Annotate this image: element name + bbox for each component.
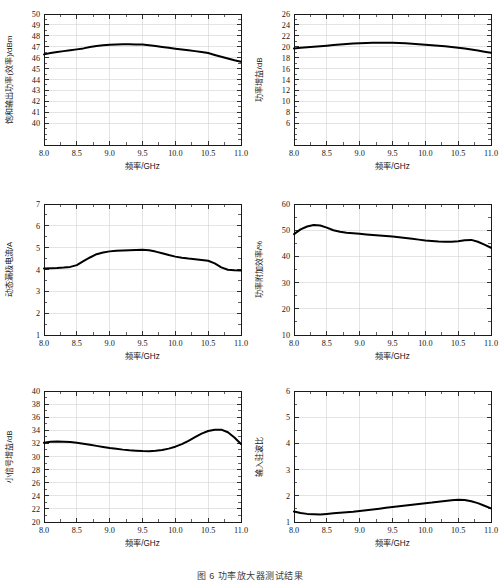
x-tick-label: 8.0: [289, 339, 299, 348]
x-tick-label: 8.0: [39, 149, 49, 158]
chart-panel-power-added-efficiency: 1020304050608.08.59.09.510.010.511.0频率/G…: [250, 190, 500, 383]
x-tick-label: 9.0: [105, 339, 115, 348]
x-tick-label: 9.5: [137, 339, 147, 348]
x-tick-label: 11.0: [234, 149, 248, 158]
x-tick-label: 8.0: [289, 526, 299, 535]
y-tick-label: 30: [32, 453, 40, 462]
x-tick-label: 8.5: [72, 339, 82, 348]
y-tick-label: 24: [32, 492, 40, 501]
x-tick-label: 11.0: [484, 149, 498, 158]
y-tick-label: 3: [286, 466, 290, 475]
x-tick-label: 10.0: [418, 339, 432, 348]
x-tick-label: 9.0: [355, 149, 365, 158]
y-tick-label: 40: [32, 387, 40, 396]
x-tick-label: 9.5: [387, 149, 397, 158]
chart-panel-small-signal-gain: 20222426283032343638408.08.59.09.510.010…: [0, 377, 250, 570]
x-tick-label: 8.0: [39, 339, 49, 348]
y-tick-label: 4: [36, 266, 40, 275]
x-tick-label: 8.0: [289, 149, 299, 158]
y-axis-title: 功率附加效率/%: [254, 241, 264, 298]
x-tick-label: 9.0: [105, 526, 115, 535]
y-tick-label: 60: [282, 200, 290, 209]
x-tick-label: 10.5: [451, 339, 465, 348]
y-tick-label: 18: [282, 54, 290, 63]
y-axis-title: 饱和输出功率(效率)/dBm: [4, 35, 14, 123]
y-tick-label: 45: [32, 65, 40, 74]
chart-svg-dynamic-drain-current: 12345678.08.59.09.510.010.511.0频率/GHz动态漏…: [0, 190, 250, 383]
y-tick-label: 43: [32, 86, 40, 95]
y-tick-label: 48: [32, 32, 40, 41]
y-tick-label: 5: [36, 244, 40, 253]
y-tick-label: 24: [282, 21, 290, 30]
y-tick-label: 4: [286, 439, 290, 448]
y-tick-label: 26: [282, 10, 290, 19]
x-tick-label: 10.5: [201, 339, 215, 348]
y-tick-label: 2: [36, 309, 40, 318]
y-tick-label: 30: [282, 279, 290, 288]
y-tick-label: 40: [32, 119, 40, 128]
x-tick-label: 10.5: [451, 526, 465, 535]
chart-svg-power-gain: 681012141618202224268.08.59.09.510.010.5…: [250, 0, 500, 193]
x-tick-label: 8.5: [72, 526, 82, 535]
y-tick-label: 10: [282, 97, 290, 106]
y-tick-label: 20: [282, 305, 290, 314]
figure-caption: 图 6 功率放大器测试结果: [0, 569, 500, 582]
x-tick-label: 10.0: [168, 339, 182, 348]
y-axis-title: 输入驻波比: [254, 437, 264, 477]
x-tick-label: 11.0: [234, 526, 248, 535]
x-tick-label: 8.5: [72, 149, 82, 158]
y-tick-label: 12: [282, 86, 290, 95]
y-tick-label: 44: [32, 76, 40, 85]
x-tick-label: 9.5: [387, 526, 397, 535]
x-tick-label: 9.5: [387, 339, 397, 348]
chart-svg-saturated-output-power: 40414243444546474849508.08.59.09.510.010…: [0, 0, 250, 193]
chart-panel-input-vswr: 1234568.08.59.09.510.010.511.0频率/GHz输入驻波…: [250, 377, 500, 570]
y-tick-label: 26: [32, 479, 40, 488]
x-axis-title: 频率/GHz: [125, 161, 160, 171]
y-tick-label: 36: [32, 413, 40, 422]
y-tick-label: 3: [36, 287, 40, 296]
y-tick-label: 38: [32, 400, 40, 409]
x-axis-title: 频率/GHz: [125, 538, 160, 548]
chart-svg-input-vswr: 1234568.08.59.09.510.010.511.0频率/GHz输入驻波…: [250, 377, 500, 570]
x-tick-label: 10.0: [168, 149, 182, 158]
y-tick-label: 8: [286, 108, 290, 117]
chart-panel-power-gain: 681012141618202224268.08.59.09.510.010.5…: [250, 0, 500, 193]
x-tick-label: 10.5: [201, 149, 215, 158]
y-tick-label: 32: [32, 439, 40, 448]
y-tick-label: 6: [286, 387, 290, 396]
x-tick-label: 10.0: [418, 149, 432, 158]
chart-panel-saturated-output-power: 40414243444546474849508.08.59.09.510.010…: [0, 0, 250, 193]
y-tick-label: 34: [32, 426, 40, 435]
x-tick-label: 10.5: [451, 149, 465, 158]
y-tick-label: 2: [286, 492, 290, 501]
x-axis-title: 频率/GHz: [375, 538, 410, 548]
x-tick-label: 11.0: [234, 339, 248, 348]
x-tick-label: 8.5: [322, 526, 332, 535]
y-tick-label: 50: [282, 226, 290, 235]
y-tick-label: 16: [282, 65, 290, 74]
y-tick-label: 22: [282, 32, 290, 41]
y-axis-title: 小信号增益/dB: [4, 430, 14, 482]
y-tick-label: 6: [36, 222, 40, 231]
x-tick-label: 9.0: [355, 526, 365, 535]
chart-panel-dynamic-drain-current: 12345678.08.59.09.510.010.511.0频率/GHz动态漏…: [0, 190, 250, 383]
y-tick-label: 5: [286, 413, 290, 422]
figure-container: 40414243444546474849508.08.59.09.510.010…: [0, 0, 500, 583]
x-tick-label: 9.0: [355, 339, 365, 348]
x-axis-title: 频率/GHz: [375, 161, 410, 171]
x-tick-label: 10.0: [168, 526, 182, 535]
y-tick-label: 7: [36, 200, 40, 209]
y-tick-label: 14: [282, 76, 290, 85]
y-tick-label: 47: [32, 43, 40, 52]
x-tick-label: 9.5: [137, 526, 147, 535]
x-tick-label: 8.5: [322, 339, 332, 348]
y-tick-label: 20: [282, 43, 290, 52]
y-tick-label: 40: [282, 252, 290, 261]
y-tick-label: 46: [32, 54, 40, 63]
x-axis-title: 频率/GHz: [125, 351, 160, 361]
chart-svg-power-added-efficiency: 1020304050608.08.59.09.510.010.511.0频率/G…: [250, 190, 500, 383]
x-tick-label: 9.0: [105, 149, 115, 158]
y-tick-label: 41: [32, 108, 40, 117]
chart-svg-small-signal-gain: 20222426283032343638408.08.59.09.510.010…: [0, 377, 250, 570]
